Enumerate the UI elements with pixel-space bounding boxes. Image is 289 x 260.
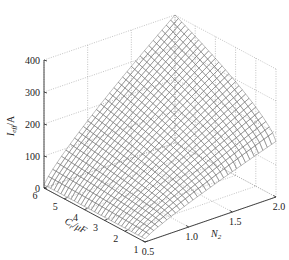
mesh-cell: [258, 117, 266, 125]
mesh-cell: [165, 65, 173, 73]
c-tick-mark: [125, 230, 128, 231]
mesh-cell: [187, 131, 195, 138]
n-tick-mark: [274, 196, 277, 198]
mesh-cell: [152, 211, 160, 217]
mesh-cell: [220, 141, 228, 149]
mesh-cell: [257, 125, 265, 134]
mesh-cell: [220, 168, 228, 177]
mesh-cell: [171, 44, 179, 52]
mesh-cell: [212, 78, 220, 86]
mesh-cell: [183, 66, 191, 74]
mesh-cell: [170, 23, 178, 31]
mesh-cell: [153, 182, 161, 189]
mesh-cell: [175, 161, 183, 168]
mesh-cell: [230, 90, 238, 98]
mesh-cell: [150, 202, 158, 209]
mesh-cell: [248, 103, 256, 111]
grid-line: [175, 47, 276, 101]
n-tick-label: 1.0: [185, 231, 198, 242]
mesh-cell: [221, 160, 229, 168]
mesh-cell: [149, 186, 157, 193]
mesh-cell: [164, 159, 172, 166]
mesh-cell: [236, 106, 244, 114]
mesh-cell: [189, 167, 197, 174]
surface-plot: 0100200300400 123456 0.51.01.52.0 Ieff/A…: [0, 0, 289, 260]
mesh-cell: [164, 126, 172, 134]
mesh-cell: [153, 125, 161, 133]
mesh-cell: [154, 150, 162, 157]
mesh-cell: [98, 207, 106, 216]
mesh-cell: [146, 65, 154, 73]
mesh-cell: [211, 58, 219, 66]
mesh-cell: [165, 176, 173, 183]
mesh-cell: [203, 182, 211, 191]
mesh-cell: [160, 156, 168, 163]
mesh-cell: [150, 60, 158, 68]
mesh-cell: [147, 57, 155, 65]
mesh-cell: [145, 101, 153, 109]
mesh-cell: [190, 108, 198, 116]
mesh-cell: [210, 156, 218, 164]
mesh-cell: [206, 71, 214, 79]
mesh-cell: [168, 130, 176, 137]
mesh-cell: [216, 110, 224, 118]
mesh-cell: [182, 192, 190, 199]
mesh-cell: [227, 149, 235, 157]
mesh-cell: [151, 114, 159, 122]
mesh-cell: [149, 68, 157, 76]
mesh-cell: [150, 179, 158, 186]
mesh-cell: [170, 52, 178, 60]
mesh-cell: [161, 34, 169, 42]
mesh-cell: [44, 176, 52, 186]
mesh-cell: [178, 78, 186, 86]
mesh-cell: [183, 160, 191, 167]
mesh-cell: [146, 93, 154, 101]
mesh-cell: [213, 167, 221, 175]
mesh-cell: [157, 207, 165, 214]
mesh-cell: [161, 62, 169, 70]
mesh-cell: [238, 118, 246, 126]
mesh-cell: [193, 137, 201, 144]
mesh-cell: [155, 191, 163, 198]
mesh-cell: [211, 148, 219, 156]
mesh-cell: [199, 178, 207, 185]
mesh-cell: [203, 148, 211, 155]
mesh-cell: [208, 83, 216, 91]
mesh-cell: [182, 167, 190, 174]
mesh-cell: [172, 64, 180, 72]
mesh-cell: [178, 139, 186, 146]
mesh-cell: [188, 174, 196, 181]
mesh-cell: [196, 148, 204, 155]
mesh-cell: [246, 119, 254, 127]
mesh-cell: [141, 70, 149, 78]
axes: [44, 60, 276, 242]
mesh-cell: [183, 185, 191, 192]
mesh-cell: [229, 133, 237, 141]
mesh-cell: [253, 128, 261, 136]
mesh-cell: [167, 103, 175, 111]
mesh-cell: [149, 209, 157, 216]
mesh-cell: [183, 101, 191, 109]
mesh-cell: [179, 42, 187, 50]
mesh-cell: [195, 181, 203, 188]
mesh-cell: [198, 99, 206, 107]
c-tick-label: 3: [93, 222, 98, 233]
mesh-cell: [176, 154, 184, 161]
mesh-cell: [197, 107, 205, 115]
mesh-cell: [159, 194, 167, 201]
mesh-cell: [225, 102, 233, 110]
mesh-cell: [199, 126, 207, 134]
n-axis-ticks: 0.51.01.52.0: [142, 196, 286, 258]
mesh-cell: [183, 127, 191, 135]
mesh-cell: [200, 144, 208, 151]
mesh-cell: [234, 122, 242, 130]
mesh-cell: [186, 41, 194, 49]
mesh-cell: [186, 77, 194, 85]
mesh-cell: [201, 137, 209, 144]
mesh-cell: [224, 82, 232, 90]
mesh-cell: [233, 102, 241, 110]
mesh-cell: [154, 175, 162, 182]
mesh-cell: [198, 72, 206, 80]
mesh-cell: [161, 149, 169, 156]
mesh-cell: [235, 86, 243, 94]
